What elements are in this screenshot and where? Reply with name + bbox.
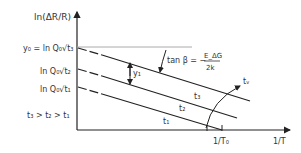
y-label-t2: ln Q₀√t₂ xyxy=(40,67,71,76)
arrhenius-diagram: ln(ΔR/R) y₀ = ln Q₀√t₃ ln Q₀√t₂ ln Q₀√t₁… xyxy=(0,0,301,153)
line-t1-dashed xyxy=(78,87,102,94)
x-marker-label: 1/T₀ xyxy=(213,137,229,146)
inequality-label: t₃ > t₂ > t₁ xyxy=(27,111,70,120)
slope-numerator: E_ΔG xyxy=(204,52,222,60)
line-t1 xyxy=(102,94,222,130)
line-t3-dashed xyxy=(78,48,102,55)
line-t2-dashed xyxy=(78,69,102,76)
slope-label: tan β = − xyxy=(167,56,206,65)
line-t2 xyxy=(102,76,237,118)
tv-label: tᵥ xyxy=(243,77,249,86)
slope-pointer-arc xyxy=(160,50,166,72)
y-axis-label: ln(ΔR/R) xyxy=(34,12,71,22)
y-label-y0: y₀ = ln Q₀√t₃ xyxy=(23,44,74,53)
y1-label: y₁ xyxy=(133,69,141,78)
slope-denominator: 2k xyxy=(206,64,215,72)
line-t1-label: t₁ xyxy=(163,117,169,126)
line-t2-label: t₂ xyxy=(179,104,185,113)
x-axis-label: 1/T xyxy=(273,137,286,146)
y-label-t1: ln Q₀√t₁ xyxy=(40,85,71,94)
line-t3-label: t₃ xyxy=(194,92,200,101)
